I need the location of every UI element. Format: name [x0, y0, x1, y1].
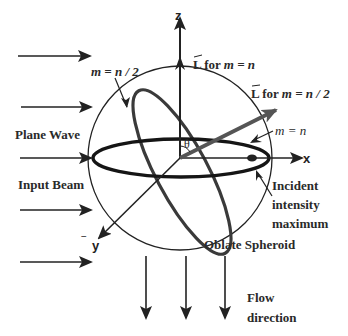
- theta-label: θ: [184, 137, 190, 151]
- label-plane-wave: Plane Wave: [15, 127, 80, 142]
- L-for-text: for: [259, 86, 282, 101]
- L-m-n-half-eq: m = n / 2: [282, 86, 330, 101]
- label-input-beam: Input Beam: [18, 177, 84, 192]
- leader-m-n-head: [250, 134, 262, 143]
- L-m-n-eq: m = n: [224, 57, 255, 72]
- label-flow-1: Flow: [247, 290, 275, 305]
- x-axis-label: x: [303, 151, 311, 166]
- label-incident-2: intensity: [272, 197, 320, 212]
- z-axis-label: z: [175, 8, 182, 23]
- flow-arrows: [146, 256, 225, 318]
- svg-text:L for m = n: L for m = n: [193, 57, 255, 72]
- y-axis-minus: −: [81, 231, 87, 242]
- label-incident-1: Incident: [272, 178, 319, 193]
- diagram-canvas: z x y − θ m = n / 2 L for m = n L for m …: [0, 0, 348, 336]
- label-incident-3: maximum: [272, 216, 329, 231]
- label-ring-m-n-half: m = n / 2: [91, 64, 139, 79]
- leader-m-n-half-head: [121, 97, 130, 108]
- label-flow-2: direction: [247, 310, 297, 325]
- svg-text:L for m = n / 2: L for m = n / 2: [251, 86, 330, 101]
- label-L-m-n: L for m = n: [193, 55, 255, 72]
- label-oblate-spheroid: Oblate Spheroid: [204, 237, 296, 252]
- diagram-svg: z x y − θ m = n / 2 L for m = n L for m …: [0, 0, 348, 336]
- incident-intensity-dot: [247, 155, 257, 162]
- L-for-text: for: [201, 57, 224, 72]
- y-axis-label: y: [92, 238, 100, 253]
- label-L-m-n-half: L for m = n / 2: [251, 85, 330, 101]
- label-ring-m-n: m = n: [275, 123, 306, 138]
